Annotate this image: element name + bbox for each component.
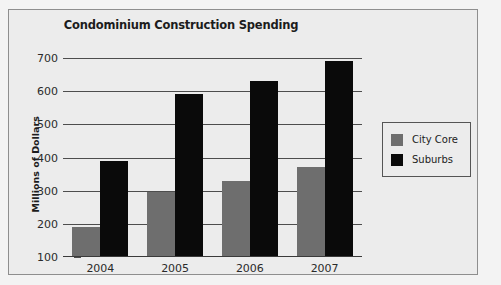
gridline: [63, 158, 362, 159]
y-axis-tick-label: 400: [22, 151, 58, 164]
x-axis-tick-label-2004: 2004: [63, 262, 138, 275]
chart-screenshot: Condominium Construction Spending Millio…: [0, 0, 501, 285]
bar-suburbs-2005: [175, 94, 203, 257]
gridline: [63, 58, 362, 59]
y-axis-tick-label: 600: [22, 85, 58, 98]
chart-legend: City CoreSuburbs: [382, 122, 471, 177]
x-axis-tick-label-2005: 2005: [138, 262, 213, 275]
bar-city-core-2005: [147, 192, 175, 257]
gridline: [63, 124, 362, 125]
y-axis-tick-labels: 100200300400500600700: [18, 0, 58, 285]
y-axis-tick-label: 500: [22, 118, 58, 131]
x-axis-line: [63, 256, 362, 257]
legend-label: City Core: [412, 133, 458, 147]
bar-city-core-2006: [222, 181, 250, 257]
legend-label: Suburbs: [412, 153, 453, 167]
bar-suburbs-2007: [325, 61, 353, 257]
x-axis-tick-label-2006: 2006: [213, 262, 288, 275]
bar-suburbs-2006: [250, 81, 278, 257]
chart-title: Condominium Construction Spending: [46, 18, 316, 32]
y-axis-tick-label: 300: [22, 184, 58, 197]
legend-swatch-city-core: [391, 134, 403, 146]
bar-city-core-2007: [297, 167, 325, 257]
y-axis-tick-label: 100: [22, 251, 58, 264]
legend-swatch-suburbs: [391, 154, 403, 166]
y-axis-tick-mark: [74, 257, 81, 258]
plot-area: [63, 56, 362, 257]
bar-suburbs-2004: [100, 161, 128, 257]
gridline: [63, 91, 362, 92]
bar-city-core-2004: [72, 227, 100, 257]
y-axis-tick-label: 700: [22, 52, 58, 65]
y-axis-tick-label: 200: [22, 217, 58, 230]
x-axis-tick-label-2007: 2007: [287, 262, 362, 275]
